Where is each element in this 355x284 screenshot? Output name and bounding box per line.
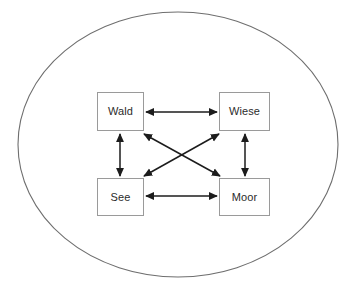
node-moor-label: Moor (232, 192, 257, 203)
node-moor[interactable]: Moor (219, 178, 270, 216)
diagram-canvas: Wald Wiese See Moor (0, 0, 355, 284)
node-wald-label: Wald (108, 106, 133, 117)
node-wald[interactable]: Wald (97, 92, 144, 131)
diagram-svg (0, 0, 355, 284)
node-wiese-label: Wiese (229, 106, 260, 117)
node-wiese[interactable]: Wiese (219, 92, 270, 131)
node-see[interactable]: See (97, 178, 144, 216)
boundary-ellipse (18, 12, 338, 277)
node-see-label: See (111, 192, 131, 203)
